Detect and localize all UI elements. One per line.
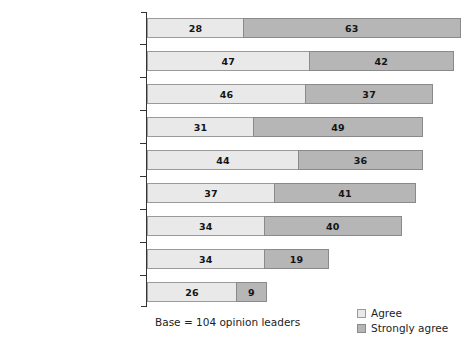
legend-item-label: Strongly agree: [371, 322, 448, 334]
stacked-bar: 269: [147, 282, 267, 302]
bar-value-label: 26: [185, 287, 199, 298]
axis-tick: [140, 209, 147, 210]
axis-tick: [140, 242, 147, 243]
axis-tick: [140, 44, 147, 45]
axis-cap-top: [141, 12, 147, 13]
bar-value-label: 63: [345, 23, 359, 34]
bar-value-label: 37: [204, 188, 218, 199]
bar-value-label: 36: [354, 155, 368, 166]
bar-value-label: 41: [338, 188, 352, 199]
legend-item-label: Agree: [371, 307, 402, 319]
stacked-bar: 3440: [147, 216, 402, 236]
stacked-bar: 2863: [147, 18, 461, 38]
stacked-bar: 3149: [147, 117, 423, 137]
legend-item-strongly-agree[interactable]: Strongly agree: [357, 321, 448, 335]
bar-segment-strongly-agree[interactable]: 40: [264, 216, 402, 236]
bar-value-label: 34: [199, 221, 213, 232]
bar-segment-strongly-agree[interactable]: 37: [305, 84, 433, 104]
chart-legend: Agree Strongly agree: [357, 306, 448, 336]
bar-segment-strongly-agree[interactable]: 36: [298, 150, 423, 170]
axis-tick: [140, 77, 147, 78]
stacked-bar: 3419: [147, 249, 329, 269]
axis-tick: [140, 275, 147, 276]
axis-tick: [140, 110, 147, 111]
bar-value-label: 9: [248, 287, 255, 298]
bar-segment-agree[interactable]: 31: [147, 117, 254, 137]
bar-segment-strongly-agree[interactable]: 63: [243, 18, 461, 38]
bar-segment-strongly-agree[interactable]: 42: [309, 51, 454, 71]
legend-item-agree[interactable]: Agree: [357, 306, 448, 320]
bar-segment-strongly-agree[interactable]: 19: [264, 249, 330, 269]
plot-area: Reliable products and services2863Transp…: [0, 0, 469, 352]
axis-tick: [140, 176, 147, 177]
bar-value-label: 49: [331, 122, 345, 133]
axis-tick: [140, 143, 147, 144]
bar-value-label: 28: [189, 23, 203, 34]
bar-value-label: 34: [199, 254, 213, 265]
bar-segment-agree[interactable]: 37: [147, 183, 275, 203]
bar-segment-agree[interactable]: 47: [147, 51, 310, 71]
bar-segment-agree[interactable]: 34: [147, 249, 265, 269]
bar-value-label: 46: [220, 89, 234, 100]
bar-segment-strongly-agree[interactable]: 9: [236, 282, 267, 302]
legend-swatch-icon: [357, 309, 366, 318]
bar-value-label: 19: [290, 254, 304, 265]
base-note: Base = 104 opinion leaders: [155, 316, 300, 328]
axis-cap-bottom: [141, 306, 147, 307]
stacked-bar: 4637: [147, 84, 433, 104]
stacked-bar-chart: Reliable products and services2863Transp…: [0, 0, 469, 352]
bar-value-label: 37: [362, 89, 376, 100]
bar-value-label: 31: [194, 122, 208, 133]
bar-value-label: 40: [326, 221, 340, 232]
bar-value-label: 44: [216, 155, 230, 166]
bar-segment-strongly-agree[interactable]: 49: [253, 117, 423, 137]
legend-swatch-icon: [357, 324, 366, 333]
bar-segment-strongly-agree[interactable]: 41: [274, 183, 416, 203]
bar-value-label: 47: [221, 56, 235, 67]
bar-segment-agree[interactable]: 26: [147, 282, 237, 302]
bar-segment-agree[interactable]: 34: [147, 216, 265, 236]
bar-segment-agree[interactable]: 28: [147, 18, 244, 38]
bar-segment-agree[interactable]: 46: [147, 84, 306, 104]
stacked-bar: 3741: [147, 183, 416, 203]
bar-value-label: 42: [374, 56, 388, 67]
stacked-bar: 4436: [147, 150, 423, 170]
stacked-bar: 4742: [147, 51, 454, 71]
bar-segment-agree[interactable]: 44: [147, 150, 299, 170]
